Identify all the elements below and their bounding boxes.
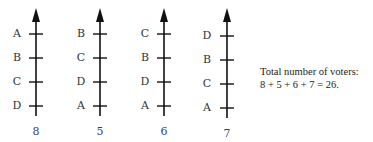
ballot-column: A B C D 8	[10, 0, 50, 142]
arrow-axis-icon	[200, 0, 240, 142]
rank-4-label: A	[200, 102, 214, 114]
rank-4-label: D	[10, 100, 24, 112]
rank-1-label: D	[200, 30, 214, 42]
rank-1-label: A	[10, 28, 24, 40]
voter-count: 5	[90, 125, 110, 138]
rank-3-label: C	[200, 78, 214, 90]
rank-2-label: B	[200, 54, 214, 66]
ballot-column: D B C A 7	[200, 0, 240, 142]
rank-1-label: C	[138, 28, 152, 40]
rank-1-label: B	[74, 28, 88, 40]
voter-count: 6	[154, 125, 174, 138]
arrow-axis-icon	[138, 0, 178, 142]
rank-2-label: B	[138, 52, 152, 64]
rank-4-label: A	[74, 100, 88, 112]
voter-count: 8	[26, 125, 46, 138]
rank-2-label: C	[74, 52, 88, 64]
ballot-column: C B D A 6	[138, 0, 178, 142]
total-equation: 8 + 5 + 6 + 7 = 26.	[260, 78, 359, 91]
voter-count: 7	[217, 127, 237, 140]
total-label: Total number of voters:	[260, 65, 359, 78]
ballot-column: B C D A 5	[74, 0, 114, 142]
arrow-axis-icon	[74, 0, 114, 142]
rank-3-label: C	[10, 76, 24, 88]
total-voters-note: Total number of voters: 8 + 5 + 6 + 7 = …	[260, 65, 359, 91]
rank-3-label: D	[74, 76, 88, 88]
arrow-axis-icon	[10, 0, 50, 142]
rank-3-label: D	[138, 76, 152, 88]
rank-2-label: B	[10, 52, 24, 64]
rank-4-label: A	[138, 100, 152, 112]
